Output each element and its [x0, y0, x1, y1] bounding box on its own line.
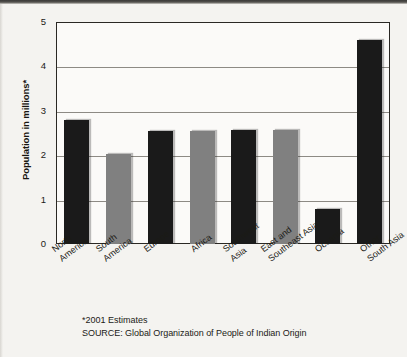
- footnote-estimate: *2001 Estimates: [82, 314, 306, 327]
- y-tick-label-1: 1: [24, 194, 46, 205]
- bar-slot: [98, 22, 140, 244]
- bar-slot: [56, 22, 98, 244]
- bar[interactable]: [64, 120, 89, 244]
- y-tick-label-5: 5: [24, 16, 46, 27]
- y-tick-label-0: 0: [24, 238, 46, 249]
- y-axis-title-text: Population in millions*: [20, 55, 31, 205]
- bar-slot: [140, 22, 182, 244]
- x-axis-tick-labels: NorthAmericaSouthAmericaEuropeAfricaSout…: [56, 246, 390, 316]
- bar-slot: [181, 22, 223, 244]
- bar[interactable]: [148, 131, 173, 244]
- chart-footnotes: *2001 Estimates SOURCE: Global Organizat…: [82, 314, 306, 339]
- y-tick-label-4: 4: [24, 60, 46, 71]
- bar-chart-figure: Population in millions* 543210 NorthAmer…: [0, 0, 407, 357]
- bar[interactable]: [357, 40, 382, 244]
- bar-slot: [265, 22, 307, 244]
- bar-slot: [348, 22, 390, 244]
- bars-container: [56, 22, 390, 244]
- footnote-source: SOURCE: Global Organization of People of…: [82, 327, 306, 340]
- y-axis-title: Population in millions*: [20, 0, 31, 55]
- bar-slot: [223, 22, 265, 244]
- bar-slot: [307, 22, 349, 244]
- y-tick-label-3: 3: [24, 105, 46, 116]
- bar[interactable]: [190, 131, 215, 244]
- y-tick-label-2: 2: [24, 149, 46, 160]
